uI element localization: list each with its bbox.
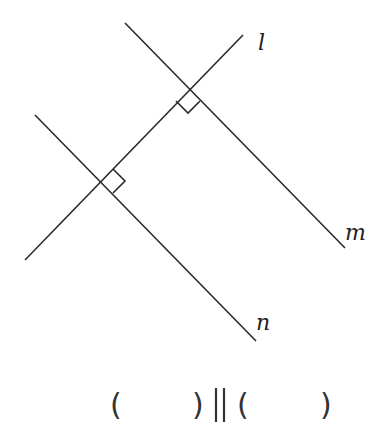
right-open-paren: ( xyxy=(237,387,249,422)
line-n xyxy=(35,115,256,341)
right-angle-mark-ln xyxy=(113,169,125,193)
left-open-paren: ( xyxy=(110,387,122,422)
label-m: m xyxy=(345,220,366,245)
right-angle-mark-lm xyxy=(176,101,200,113)
label-l: l xyxy=(258,30,265,55)
geometry-diagram: l m n ( ) ( ) xyxy=(0,0,383,445)
left-close-paren: ) xyxy=(192,387,204,422)
line-m xyxy=(125,23,345,248)
right-close-paren: ) xyxy=(320,387,332,422)
parallel-symbol xyxy=(216,388,224,422)
label-n: n xyxy=(256,310,270,335)
line-l xyxy=(25,35,243,260)
